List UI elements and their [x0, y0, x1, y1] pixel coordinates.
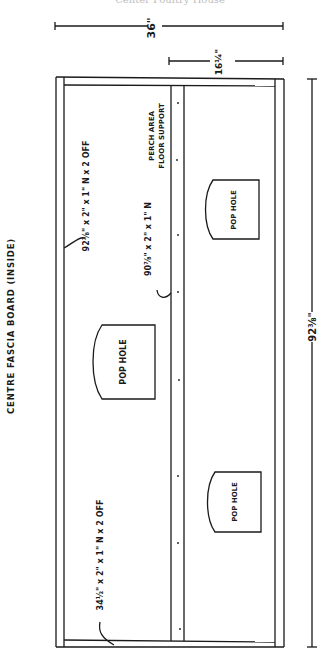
label-centre-support: 90⅞" x 2" x 1" N PERCH AREA FLOOR SUPPOR…: [144, 103, 171, 297]
svg-text:34½" x 2" x 1" N x 2 OFF: 34½" x 2" x 1" N x 2 OFF: [95, 500, 105, 611]
drawing-title: CENTRE FASCIA BOARD (INSIDE): [6, 238, 16, 414]
dimension-label-92-3-8: 92⅜": [307, 312, 318, 341]
pop-hole-3: POP HOLE: [208, 472, 262, 532]
dimension-label-36: 36": [145, 17, 158, 38]
svg-text:POP HOLE: POP HOLE: [119, 339, 128, 384]
technical-drawing: 36" 16¼" 92⅜": [0, 0, 334, 670]
svg-text:FLOOR SUPPORT: FLOOR SUPPORT: [158, 103, 166, 169]
pop-hole-1: POP HOLE: [206, 180, 260, 239]
svg-text:POP HOLE: POP HOLE: [230, 190, 238, 230]
dimension-overall-width: 36": [55, 17, 283, 38]
dimension-overall-length: 92⅜": [307, 79, 318, 647]
dimension-label-16-1-4: 16¼": [214, 49, 224, 76]
svg-text:92⅜" x 2" x 1" N x 2 OFF: 92⅜" x 2" x 1" N x 2 OFF: [82, 141, 91, 252]
svg-text:PERCH AREA: PERCH AREA: [148, 111, 156, 161]
svg-text:90⅞" x 2" x 1" N: 90⅞" x 2" x 1" N: [144, 202, 153, 276]
pop-hole-2: POP HOLE: [93, 325, 155, 399]
centre-floor-support: [171, 86, 184, 641]
label-top-rail: 92⅜" x 2" x 1" N x 2 OFF: [64, 141, 91, 252]
label-end-rails: 34½" x 2" x 1" N x 2 OFF: [95, 500, 114, 645]
dimension-half-width: 16¼": [169, 49, 283, 76]
svg-text:POP HOLE: POP HOLE: [231, 482, 239, 522]
